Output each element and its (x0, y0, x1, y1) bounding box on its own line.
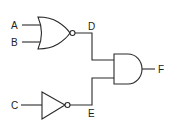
label-c: C (11, 100, 18, 111)
nor-gate (38, 17, 75, 49)
not-gate (42, 92, 70, 119)
wire-e (70, 78, 114, 105)
not-bubble-icon (65, 103, 70, 108)
nor-bubble-icon (70, 31, 75, 36)
wire-d (75, 33, 114, 60)
label-e: E (88, 108, 95, 119)
label-a: A (11, 20, 18, 31)
label-f: F (158, 64, 164, 75)
and-gate (114, 54, 142, 84)
logic-circuit-diagram: A B C D E F (0, 0, 175, 127)
label-d: D (88, 21, 95, 32)
label-b: B (11, 37, 18, 48)
